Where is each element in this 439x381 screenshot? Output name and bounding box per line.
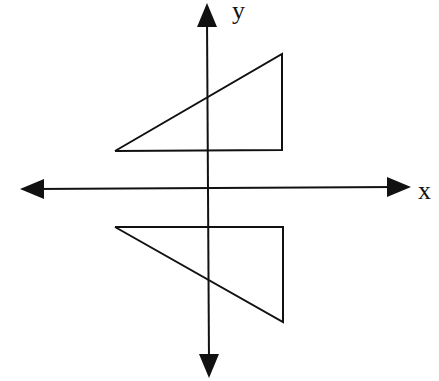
- lower-triangle: [115, 227, 283, 322]
- y-axis-line: [207, 19, 209, 362]
- x-axis-label: x: [418, 176, 431, 205]
- x-axis-line: [34, 187, 397, 189]
- x-axis: x: [20, 176, 431, 205]
- upper-triangle: [115, 54, 282, 151]
- coordinate-diagram: x y: [0, 0, 439, 381]
- y-axis-bottom-arrow-icon: [199, 354, 219, 378]
- x-axis-right-arrow-icon: [387, 177, 411, 197]
- y-axis-top-arrow-icon: [197, 3, 217, 27]
- y-axis-label: y: [232, 0, 245, 25]
- x-axis-left-arrow-icon: [20, 179, 44, 199]
